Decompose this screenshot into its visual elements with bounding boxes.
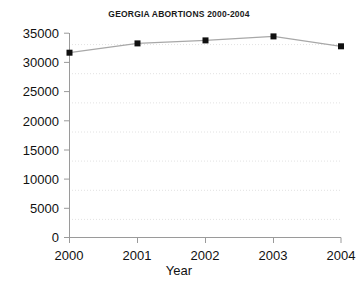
ytick-label-30000: 30000 bbox=[3, 55, 59, 70]
gridlines bbox=[69, 45, 341, 220]
data-point-2002 bbox=[203, 37, 209, 43]
xtick-label-2000: 2000 bbox=[42, 248, 96, 263]
xtick-label-2002: 2002 bbox=[178, 248, 232, 263]
ytick-label-5000: 5000 bbox=[3, 201, 59, 216]
xtick-label-2001: 2001 bbox=[110, 248, 164, 263]
data-point-2004 bbox=[338, 43, 344, 49]
data-point-2001 bbox=[135, 40, 141, 46]
ytick-label-20000: 20000 bbox=[3, 114, 59, 129]
ytick-label-0: 0 bbox=[3, 230, 59, 245]
xtick-label-2004: 2004 bbox=[314, 248, 358, 263]
xtick-label-2003: 2003 bbox=[246, 248, 300, 263]
ytick-label-25000: 25000 bbox=[3, 84, 59, 99]
ytick-label-15000: 15000 bbox=[3, 143, 59, 158]
ytick-label-35000: 35000 bbox=[3, 26, 59, 41]
x-axis-title: Year bbox=[0, 263, 358, 278]
ytick-label-10000: 10000 bbox=[3, 172, 59, 187]
x-axis-ticks bbox=[70, 238, 342, 244]
data-point-2003 bbox=[271, 33, 277, 39]
data-point-2000 bbox=[67, 50, 73, 56]
axis-spines bbox=[69, 33, 341, 238]
chart-figure: GEORGIA ABORTIONS 2000-2004 bbox=[0, 0, 358, 292]
y-axis-ticks bbox=[64, 33, 69, 237]
